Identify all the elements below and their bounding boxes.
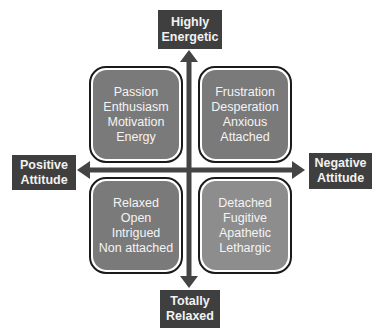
axis-label-top-line-1: Highly bbox=[171, 15, 209, 30]
axis-label-left: Positive Attitude bbox=[12, 155, 76, 190]
quadrant-item: Enthusiasm bbox=[103, 100, 168, 115]
quadrant-item: Passion bbox=[114, 85, 158, 100]
axis-label-top: Highly Energetic bbox=[158, 10, 222, 49]
quadrant-item: Attached bbox=[220, 130, 269, 145]
axis-label-bottom-line-2: Relaxed bbox=[166, 309, 214, 324]
quadrant-top-left-body: Passion Enthusiasm Motivation Energy bbox=[93, 70, 179, 159]
quadrant-item: Open bbox=[121, 211, 152, 226]
quadrant-item: Desperation bbox=[211, 100, 278, 115]
quadrant-item: Non attached bbox=[99, 241, 173, 256]
quadrant-bottom-right: Detached Fugitive Apathetic Lethargic bbox=[198, 177, 292, 274]
quadrant-item: Detached bbox=[218, 196, 272, 211]
quadrant-top-right-body: Frustration Desperation Anxious Attached bbox=[202, 70, 288, 159]
quadrant-item: Relaxed bbox=[113, 196, 159, 211]
quadrant-bottom-left: Relaxed Open Intrigued Non attached bbox=[89, 177, 183, 274]
axis-label-left-line-2: Attitude bbox=[20, 173, 67, 188]
arrow-right-icon bbox=[292, 161, 305, 179]
quadrant-item: Anxious bbox=[223, 115, 267, 130]
quadrant-item: Energy bbox=[116, 130, 156, 145]
quadrant-diagram: Highly Energetic Totally Relaxed Positiv… bbox=[0, 0, 381, 335]
axis-label-right: Negative Attitude bbox=[309, 153, 372, 189]
quadrant-item: Frustration bbox=[215, 85, 275, 100]
quadrant-top-left: Passion Enthusiasm Motivation Energy bbox=[89, 66, 183, 163]
quadrant-item: Fugitive bbox=[223, 211, 267, 226]
quadrant-item: Lethargic bbox=[219, 241, 270, 256]
arrow-left-icon bbox=[77, 161, 90, 179]
axis-label-bottom-line-1: Totally bbox=[170, 294, 209, 309]
quadrant-bottom-right-body: Detached Fugitive Apathetic Lethargic bbox=[202, 181, 288, 270]
arrow-down-icon bbox=[180, 276, 198, 288]
quadrant-top-right: Frustration Desperation Anxious Attached bbox=[198, 66, 292, 163]
axis-label-right-line-1: Negative bbox=[314, 156, 366, 171]
arrow-up-icon bbox=[180, 50, 198, 62]
axis-label-top-line-2: Energetic bbox=[162, 30, 219, 45]
axis-label-left-line-1: Positive bbox=[20, 158, 68, 173]
quadrant-bottom-left-body: Relaxed Open Intrigued Non attached bbox=[93, 181, 179, 270]
axis-label-right-line-2: Attitude bbox=[317, 171, 364, 186]
quadrant-item: Motivation bbox=[108, 115, 165, 130]
axis-label-bottom: Totally Relaxed bbox=[160, 290, 220, 328]
quadrant-item: Intrigued bbox=[112, 226, 161, 241]
quadrant-item: Apathetic bbox=[219, 226, 271, 241]
